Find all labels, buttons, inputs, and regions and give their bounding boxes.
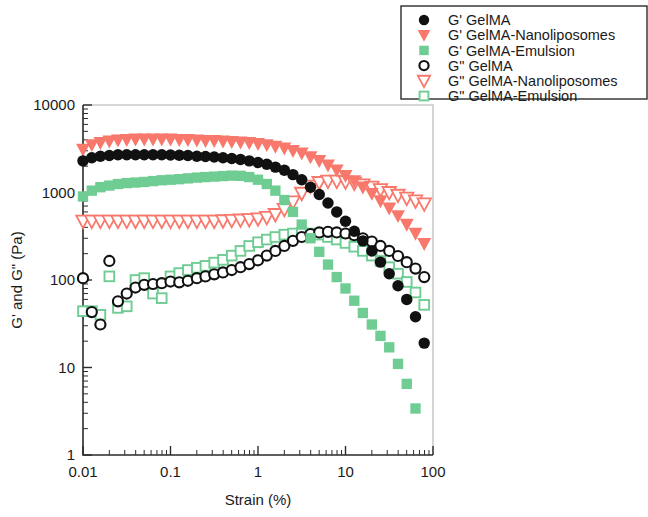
data-point xyxy=(105,272,115,282)
data-point xyxy=(322,197,333,208)
x-axis-ticks xyxy=(83,446,433,455)
data-point xyxy=(411,288,421,298)
data-point xyxy=(419,300,429,310)
data-point xyxy=(340,283,350,293)
data-point xyxy=(157,293,167,303)
data-point xyxy=(392,280,403,291)
data-point xyxy=(418,198,431,210)
data-point xyxy=(314,247,324,257)
chart-legend: G' GelMAG' GelMA-NanoliposomesG' GelMA-E… xyxy=(401,6,647,104)
data-point xyxy=(305,181,316,192)
y-tick-label: 1 xyxy=(67,446,75,463)
data-point xyxy=(358,308,368,318)
data-point xyxy=(375,256,386,267)
data-point xyxy=(78,273,88,283)
x-axis-title: Strain (%) xyxy=(225,491,292,508)
legend-item-1[interactable]: G' GelMA-Nanoliposomes xyxy=(418,27,616,43)
data-point xyxy=(349,296,359,306)
data-point xyxy=(401,294,412,305)
y-tick-label: 10 xyxy=(58,359,75,376)
data-point xyxy=(419,15,429,25)
data-point xyxy=(288,207,298,217)
data-series-layer xyxy=(76,134,431,414)
data-point xyxy=(349,226,360,237)
data-point xyxy=(357,235,368,246)
data-point xyxy=(297,219,307,229)
legend-item-label: G' GelMA-Emulsion xyxy=(448,43,575,59)
legend-item-label: G" GelMA-Emulsion xyxy=(448,88,577,104)
y-tick-label: 100 xyxy=(50,271,75,288)
y-axis-tick-labels: 110100100010000 xyxy=(33,96,75,463)
data-point xyxy=(323,259,333,269)
data-point xyxy=(410,264,420,274)
data-point xyxy=(104,256,114,266)
data-point xyxy=(366,245,377,256)
legend-item-label: G" GelMA xyxy=(448,58,513,74)
data-point xyxy=(417,238,431,251)
legend-item-label: G' GelMA-Nanoliposomes xyxy=(448,27,615,43)
data-point xyxy=(420,92,429,101)
data-point xyxy=(183,173,193,183)
x-tick-label: 100 xyxy=(420,463,445,480)
data-point xyxy=(270,185,280,195)
chart-canvas: 0.010.1110100 110100100010000 G' GelMAG'… xyxy=(0,0,648,517)
x-axis-tick-labels: 0.010.1110100 xyxy=(68,463,445,480)
data-point xyxy=(410,311,421,322)
legend-item-label: G" GelMA-Nanoliposomes xyxy=(448,73,618,89)
data-point xyxy=(340,215,351,226)
x-tick-label: 1 xyxy=(254,463,262,480)
data-point xyxy=(419,61,428,70)
data-point xyxy=(279,195,289,205)
data-point xyxy=(419,46,428,55)
y-axis-title: G' and G" (Pa) xyxy=(8,231,25,328)
y-tick-label: 1000 xyxy=(42,184,75,201)
legend-item-label: G' GelMA xyxy=(448,12,511,28)
data-point xyxy=(296,174,307,185)
data-point xyxy=(332,272,342,282)
x-tick-label: 0.01 xyxy=(68,463,97,480)
data-point xyxy=(375,331,385,341)
rheology-figure: 0.010.1110100 110100100010000 G' GelMAG'… xyxy=(0,0,648,517)
data-point xyxy=(305,233,315,243)
data-point xyxy=(393,359,403,369)
data-point xyxy=(113,296,123,306)
data-point xyxy=(331,206,342,217)
data-point xyxy=(384,268,395,279)
data-point xyxy=(95,319,105,329)
x-tick-label: 10 xyxy=(337,463,354,480)
data-point xyxy=(410,403,420,413)
y-tick-label: 10000 xyxy=(33,96,75,113)
data-point xyxy=(419,272,429,282)
data-point xyxy=(384,342,394,352)
x-tick-label: 0.1 xyxy=(160,463,181,480)
legend-item-4[interactable]: G" GelMA-Nanoliposomes xyxy=(418,73,618,89)
data-point xyxy=(87,307,97,317)
data-point xyxy=(367,319,377,329)
data-point xyxy=(402,379,412,389)
data-point xyxy=(95,182,105,192)
data-point xyxy=(314,189,325,200)
data-point xyxy=(419,337,430,348)
